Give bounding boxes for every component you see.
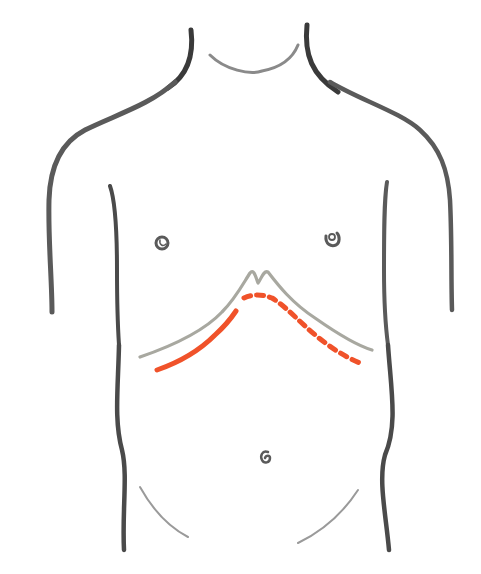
left-inner-arm-line bbox=[110, 186, 119, 345]
right-hip-line bbox=[298, 490, 358, 543]
clavicle-notch bbox=[210, 45, 298, 72]
incision-dashed bbox=[244, 295, 360, 363]
nipples bbox=[156, 233, 339, 249]
right-nipple bbox=[326, 233, 339, 246]
left-waist-outline bbox=[117, 345, 125, 550]
costal-margin-line bbox=[140, 272, 372, 357]
right-waist-outline bbox=[382, 345, 392, 550]
incision-solid bbox=[157, 311, 236, 370]
lower-torso bbox=[117, 345, 392, 550]
left-nipple bbox=[156, 237, 168, 249]
neck-left-line bbox=[168, 30, 192, 88]
navel-mark bbox=[261, 452, 270, 463]
navel bbox=[261, 452, 270, 463]
torso-illustration bbox=[0, 0, 481, 574]
neck bbox=[168, 25, 338, 92]
left-hip-line bbox=[140, 487, 188, 537]
right-shoulder-outline bbox=[330, 82, 452, 310]
shoulders-arms bbox=[49, 82, 452, 345]
right-inner-arm-line bbox=[384, 182, 388, 345]
